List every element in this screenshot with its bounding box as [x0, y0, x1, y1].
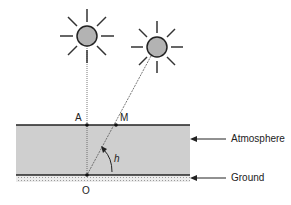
- point-m-dot: [114, 123, 118, 127]
- sun-icon: [131, 21, 183, 73]
- label-point-a: A: [75, 113, 82, 123]
- ground-arrowhead: [190, 175, 197, 181]
- point-o-dot: [85, 173, 89, 177]
- atmosphere-arrowhead: [190, 136, 197, 142]
- point-a-dot: [85, 123, 89, 127]
- label-ground: Ground: [231, 173, 264, 183]
- ground-layer: [16, 176, 190, 182]
- label-point-o: O: [82, 186, 90, 196]
- label-angle-h: h: [114, 154, 120, 164]
- label-point-m: M: [120, 113, 128, 123]
- sun-icon: [60, 9, 114, 63]
- label-atmosphere: Atmosphere: [231, 134, 285, 144]
